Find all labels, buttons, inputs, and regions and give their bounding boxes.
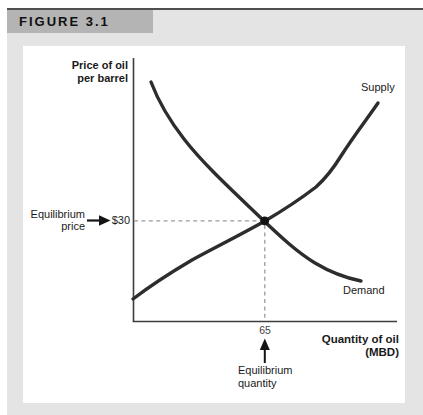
equilibrium-price-label-line2: price [18,220,85,232]
demand-curve-label: Demand [343,284,385,297]
equilibrium-point [260,216,269,225]
supply-curve [133,103,378,299]
equilibrium-quantity-label-line2: quantity [238,377,292,390]
equilibrium-quantity-tick: 65 [249,324,281,337]
x-axis-label-line1: Quantity of oil [317,333,399,346]
y-axis-label-line1: Price of oil [48,59,128,72]
equilibrium-quantity-label: Equilibrium quantity [238,364,292,390]
equilibrium-price-value: $30 [98,214,130,227]
equilibrium-price-label: Equilibrium price [18,208,85,232]
equilibrium-price-label-line1: Equilibrium [18,208,85,220]
supply-curve-label: Supply [361,81,395,94]
x-axis-label: Quantity of oil (MBD) [317,333,399,358]
figure-page: FIGURE 3.1 Price of oil per barrel Suppl… [0,0,423,415]
demand-curve [151,82,361,281]
x-axis-label-line2: (MBD) [317,346,399,359]
equilibrium-quantity-arrow-icon [260,339,270,364]
y-axis-label-line2: per barrel [48,72,128,85]
y-axis-label: Price of oil per barrel [48,59,128,85]
equilibrium-quantity-label-line1: Equilibrium [238,364,292,377]
